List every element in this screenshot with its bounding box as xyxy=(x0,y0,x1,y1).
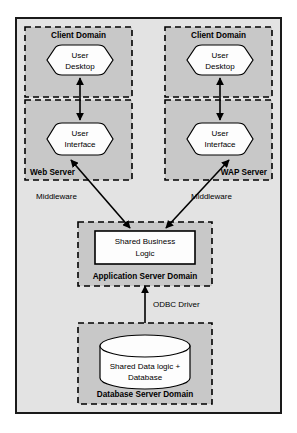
shared-database-label-line1: Shared Data logic + xyxy=(110,362,181,371)
application-server-domain-label: Application Server Domain xyxy=(93,272,198,281)
shared-business-logic-label-line1: Shared Business xyxy=(115,237,175,246)
database-server-domain-label: Database Server Domain xyxy=(97,390,193,399)
user-desktop-left-label-line2: Desktop xyxy=(65,62,95,71)
architecture-diagram: Client Domain User Desktop User Interfac… xyxy=(0,0,297,433)
middleware-left-label: Middleware xyxy=(36,192,77,201)
shared-database-top xyxy=(100,335,190,357)
user-interface-left-shape xyxy=(47,123,113,155)
architecture-diagram-canvas: Client Domain User Desktop User Interfac… xyxy=(0,0,297,433)
shared-business-logic-shape xyxy=(95,231,195,264)
client-domain-left-label: Client Domain xyxy=(51,31,106,40)
user-desktop-right-label-line2: Desktop xyxy=(205,62,235,71)
wap-server-label: WAP Server xyxy=(221,168,268,177)
odbc-driver-label: ODBC Driver xyxy=(153,300,200,309)
user-interface-right-label-line2: Interface xyxy=(204,140,236,149)
user-interface-left-label-line2: Interface xyxy=(64,140,96,149)
web-server-label: Web Server xyxy=(30,168,76,177)
user-desktop-right-label-line1: User xyxy=(212,51,229,60)
user-desktop-left-label-line1: User xyxy=(72,51,89,60)
user-interface-left-label-line1: User xyxy=(72,129,89,138)
user-interface-right-shape xyxy=(187,123,253,155)
shared-database-label-line2: Database xyxy=(128,373,163,382)
shared-business-logic-label-line2: Logic xyxy=(135,249,154,258)
client-domain-right-label: Client Domain xyxy=(191,31,246,40)
user-interface-right-label-line1: User xyxy=(212,129,229,138)
